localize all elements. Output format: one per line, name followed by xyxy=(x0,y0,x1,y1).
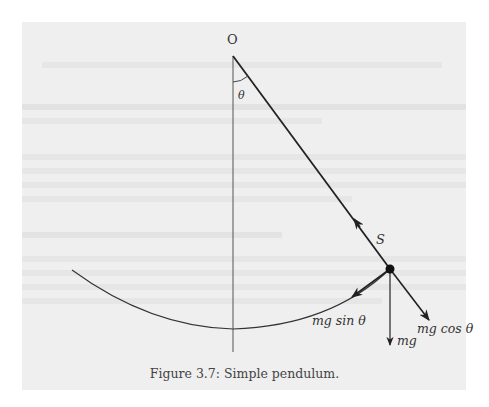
pendulum-string xyxy=(233,56,390,269)
pendulum-bob xyxy=(386,265,395,274)
angle-arc xyxy=(233,76,248,82)
radial-force-vector xyxy=(390,269,429,320)
radial-force-label: mg cos θ xyxy=(417,321,474,336)
tangential-force-vector xyxy=(352,269,390,297)
tangential-force-label: mg sin θ xyxy=(312,313,366,328)
tension-label: S xyxy=(376,232,385,247)
angle-label: θ xyxy=(238,89,245,102)
origin-label: O xyxy=(227,32,238,47)
figure-caption: Figure 3.7: Simple pendulum. xyxy=(0,366,489,381)
tension-arrow xyxy=(354,219,360,227)
pendulum-diagram: O θ S mg sin θ mg mg cos θ xyxy=(0,0,489,407)
weight-label: mg xyxy=(397,333,417,348)
